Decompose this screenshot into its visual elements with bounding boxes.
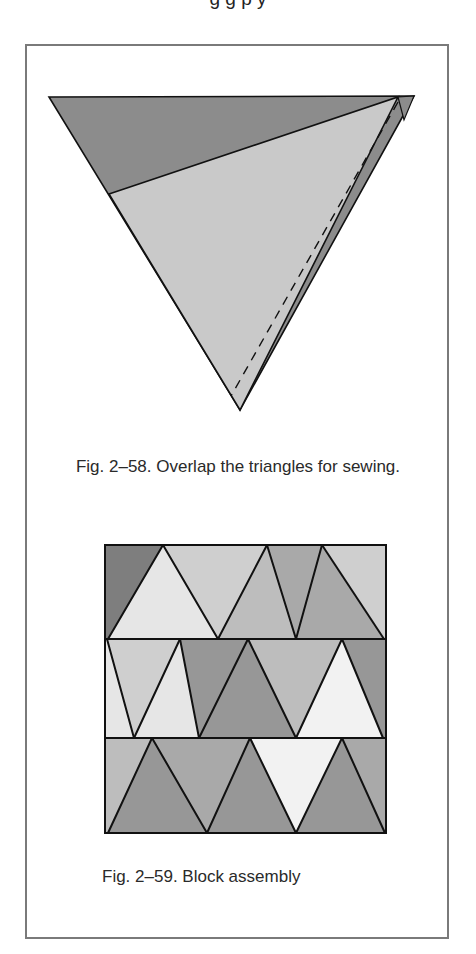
figure-2-59-caption: Fig. 2–59. Block assembly — [102, 868, 300, 885]
figure-2-59-block-assembly — [0, 0, 476, 954]
